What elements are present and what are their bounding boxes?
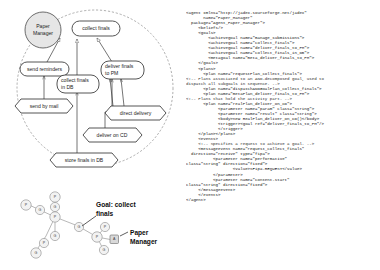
svg-text:G: G [35,251,38,255]
svg-text:to PM: to PM [105,70,118,76]
svg-text:G: G [39,208,42,212]
node-deliver-on-cd[interactable]: deliver on CD [83,128,142,142]
svg-text:send reminders: send reminders [27,66,63,72]
node-collect-finals[interactable]: collect finals [72,21,120,36]
svg-text:G: G [78,225,81,229]
diagram-canvas: Paper Manager collect finals send remind… [0,0,190,270]
svg-text:in DB: in DB [61,84,74,90]
svg-text:G: G [54,205,57,209]
node-send-reminders[interactable]: send reminders [20,62,69,76]
svg-text:deliver finals: deliver finals [105,63,134,69]
node-store-finals-in-db[interactable]: store finals in DB [50,153,118,167]
svg-text:collect finals: collect finals [82,25,110,31]
node-deliver-finals-to-pm[interactable]: deliver finals to PM [101,61,144,79]
svg-text:direct delivery: direct delivery [120,110,152,116]
screenshot-root: Paper Manager collect finals send remind… [0,0,380,270]
svg-text:collect finals: collect finals [61,77,89,83]
svg-text:Manager: Manager [33,30,53,36]
svg-text:Paper: Paper [36,23,50,29]
legend-goal-callout: Goal: collect finals [96,201,136,217]
svg-text:G: G [54,234,57,238]
svg-text:Manager: Manager [130,238,158,246]
code-line: </agent> [186,198,380,203]
legend-agent-callout: Paper Manager [130,229,158,246]
svg-text:finals: finals [96,210,114,217]
node-send-by-mail[interactable]: send by mail [15,99,73,113]
svg-text:send by mail: send by mail [30,103,59,109]
agent-xml-code-panel[interactable]: <agent xmlns="http://jadex.sourceforge.n… [186,11,380,261]
node-paper-manager-capability[interactable]: Paper Manager [25,12,61,48]
svg-text:Goal: collect: Goal: collect [96,201,136,208]
node-collect-finals-in-db[interactable]: collect finals in DB [57,75,99,93]
svg-text:Paper: Paper [130,229,149,237]
svg-text:G: G [103,248,106,252]
goal-decomposition-diagram: Paper Manager collect finals send remind… [0,0,190,270]
svg-text:deliver on CD: deliver on CD [97,132,128,138]
node-direct-delivery[interactable]: direct delivery [105,106,166,120]
svg-text:store finals in DB: store finals in DB [65,157,104,163]
